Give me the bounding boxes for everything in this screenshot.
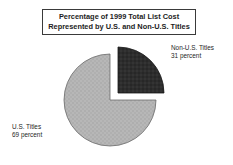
slice-label-non-us-titles-name: Non-U.S. Titles	[171, 44, 214, 52]
pie-chart-figure: Percentage of 1999 Total List Cost Repre…	[0, 0, 233, 165]
chart-title-line-1: Percentage of 1999 Total List Cost	[59, 12, 179, 23]
slice-label-non-us-titles: Non-U.S. Titles 31 percent	[171, 44, 214, 61]
slice-label-us-titles: U.S. Titles 69 percent	[12, 123, 42, 140]
pie-chart-graphic	[60, 38, 172, 154]
slice-label-non-us-titles-percent: 31 percent	[171, 52, 214, 60]
slice-label-us-titles-percent: 69 percent	[12, 131, 42, 139]
chart-title-line-2: Represented by U.S. and Non-U.S. Titles	[48, 22, 190, 33]
chart-title-box: Percentage of 1999 Total List Cost Repre…	[42, 9, 196, 35]
slice-label-us-titles-name: U.S. Titles	[12, 123, 42, 131]
chart-plot-area: Non-U.S. Titles 31 percent U.S. Titles 6…	[0, 36, 233, 165]
pie-slice-non-us-titles	[118, 47, 164, 93]
